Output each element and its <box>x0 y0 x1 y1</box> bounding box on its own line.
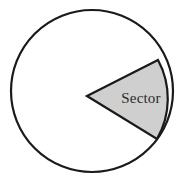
circle-sector-figure: Sector <box>0 0 187 187</box>
diagram-canvas: Sector <box>0 0 187 187</box>
sector-label: Sector <box>121 90 161 106</box>
